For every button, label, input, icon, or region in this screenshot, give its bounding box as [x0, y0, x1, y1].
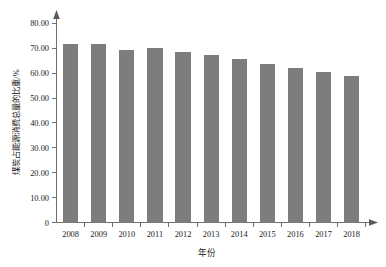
x-tick-label: 2009 [90, 230, 107, 239]
y-tick-label: 50.00 [30, 94, 49, 103]
x-tick-label: 2018 [343, 230, 360, 239]
bar-2018 [344, 76, 359, 223]
bar-2017 [316, 72, 331, 222]
bar-2010 [119, 50, 134, 222]
x-tick-label: 2011 [147, 230, 163, 239]
bar-2009 [91, 44, 106, 222]
bar-2014 [232, 59, 247, 222]
x-tick-label: 2012 [175, 230, 192, 239]
x-axis-title: 年份 [198, 247, 216, 258]
x-tick-label: 2015 [259, 230, 276, 239]
y-tick-label: 80.00 [30, 19, 49, 28]
y-axis-title: 煤炭占能源消费总量的比重/% [11, 69, 21, 174]
bar-2012 [175, 52, 190, 223]
y-tick-label: 40.00 [30, 119, 49, 128]
x-tick-label: 2010 [118, 230, 135, 239]
x-tick-label: 2008 [62, 230, 79, 239]
x-axis-tick-labels: 2008 2009 2010 2011 2012 2013 2014 2015 … [62, 230, 360, 239]
y-tick-label: 10.00 [30, 194, 49, 203]
y-tick-label: 30.00 [30, 144, 49, 153]
x-tick-label: 2014 [231, 230, 249, 239]
x-tick-label: 2016 [287, 230, 304, 239]
y-tick-label: 60.00 [30, 69, 49, 78]
bar-2016 [288, 68, 303, 222]
bar-2015 [260, 64, 275, 223]
x-tick-label: 2017 [315, 230, 332, 239]
x-tick-label: 2013 [203, 230, 220, 239]
y-tick-label: 70.00 [30, 44, 49, 53]
y-axis-tick-labels: 0 10.00 20.00 30.00 40.00 50.00 60.00 70… [30, 19, 49, 227]
y-tick-label: 20.00 [30, 169, 49, 178]
bar-chart-figure: 0 10.00 20.00 30.00 40.00 50.00 60.00 70… [0, 0, 386, 267]
y-tick-label: 0 [45, 219, 49, 228]
bar-2008 [63, 44, 78, 222]
bar-2013 [204, 55, 219, 223]
bar-2011 [147, 48, 162, 223]
